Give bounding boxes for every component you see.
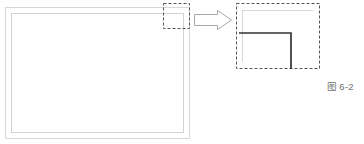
overview-inner-rect [12, 14, 184, 133]
overview-rectangle [6, 8, 190, 139]
bold-corner-path [239, 33, 291, 69]
figure-caption-label: 图 [327, 80, 337, 93]
figure-caption: 图6-2 [327, 80, 354, 93]
figure-container: 图6-2 [0, 0, 364, 144]
callout-arrow-shape [195, 11, 232, 30]
bold-corner-lines [239, 33, 291, 69]
faint-corner-lines [242, 10, 313, 62]
technical-drawing-canvas [0, 0, 364, 144]
detail-box-outline [237, 4, 320, 69]
figure-caption-number: 6-2 [339, 81, 354, 92]
callout-arrow [195, 11, 232, 30]
detail-enlargement-box [237, 4, 320, 70]
overview-outer-rect [6, 8, 190, 139]
